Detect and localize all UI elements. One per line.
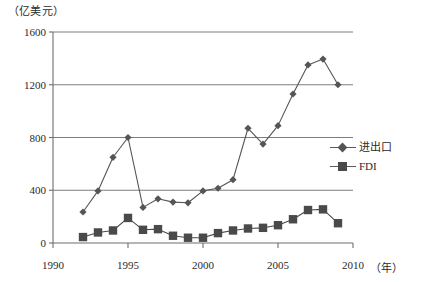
data-point-diamond — [94, 187, 101, 194]
series-import-export — [79, 55, 341, 215]
data-point-square — [229, 226, 237, 234]
data-point-square — [109, 226, 117, 234]
legend-label-fdi: FDI — [359, 161, 377, 172]
data-point-square — [214, 229, 222, 237]
legend-item-fdi: FDI — [330, 157, 392, 176]
series-line — [83, 209, 338, 237]
y-tick-label: 400 — [12, 184, 46, 196]
line-chart: （亿美元） （年） 040080012001600 19901995200020… — [0, 0, 426, 282]
data-point-diamond — [289, 90, 296, 97]
data-point-square — [94, 228, 102, 236]
data-point-square — [199, 234, 207, 242]
data-point-square — [319, 205, 327, 213]
x-tick-label: 2010 — [333, 259, 373, 271]
x-tick-label: 1990 — [33, 259, 73, 271]
y-tick-label: 1600 — [12, 26, 46, 38]
data-point-square — [334, 219, 342, 227]
x-tick-label: 1995 — [108, 259, 148, 271]
y-tick-label: 0 — [12, 237, 46, 249]
y-tick-label: 1200 — [12, 79, 46, 91]
data-point-diamond — [229, 176, 236, 183]
data-point-square — [304, 206, 312, 214]
x-tick-label: 2005 — [258, 259, 298, 271]
data-point-diamond — [154, 195, 161, 202]
data-point-diamond — [214, 185, 221, 192]
diamond-marker-icon — [330, 142, 356, 154]
data-point-square — [169, 232, 177, 240]
chart-legend: 进出口 FDI — [330, 138, 392, 176]
data-point-square — [154, 225, 162, 233]
data-point-diamond — [334, 81, 341, 88]
data-point-square — [184, 234, 192, 242]
x-tick-label: 2000 — [183, 259, 223, 271]
data-point-diamond — [139, 204, 146, 211]
data-point-square — [259, 224, 267, 232]
legend-label-import-export: 进出口 — [359, 142, 392, 153]
x-axis-unit-label: （年） — [370, 259, 403, 275]
series-line — [83, 59, 338, 212]
data-point-diamond — [319, 55, 326, 62]
y-axis-unit-label: （亿美元） — [8, 2, 64, 18]
data-point-square — [289, 215, 297, 223]
data-point-diamond — [304, 61, 311, 68]
square-marker-icon — [330, 161, 356, 173]
data-point-square — [124, 214, 132, 222]
data-point-diamond — [79, 208, 86, 215]
data-point-square — [139, 226, 147, 234]
data-point-square — [79, 233, 87, 241]
legend-item-import-export: 进出口 — [330, 138, 392, 157]
data-point-diamond — [169, 199, 176, 206]
data-point-square — [244, 224, 252, 232]
y-tick-label: 800 — [12, 132, 46, 144]
data-point-square — [274, 221, 282, 229]
series-fdi — [79, 205, 342, 242]
